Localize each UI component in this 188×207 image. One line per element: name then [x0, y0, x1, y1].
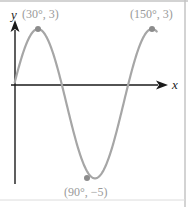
chart-plot	[0, 0, 188, 207]
peak-point-1	[35, 26, 41, 32]
peak-label-2: (150°, 3)	[130, 8, 173, 20]
peak-label-1: (30°, 3)	[22, 8, 59, 20]
trough-point	[84, 175, 90, 181]
chart-frame: y x (30°, 3) (150°, 3) (90°, −5)	[0, 0, 188, 207]
sine-curve	[15, 29, 157, 178]
x-axis-label: x	[172, 78, 178, 91]
peak-point-2	[149, 26, 155, 32]
y-axis-label: y	[11, 8, 17, 21]
trough-label: (90°, −5)	[64, 186, 108, 198]
